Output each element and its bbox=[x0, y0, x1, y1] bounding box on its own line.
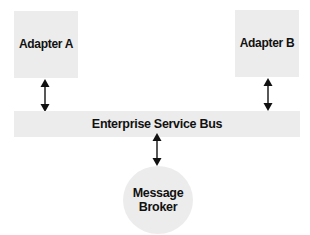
adapter-a-label: Adapter A bbox=[19, 38, 73, 52]
bus-label: Enterprise Service Bus bbox=[92, 117, 222, 131]
adapter-b-label: Adapter B bbox=[240, 37, 295, 51]
bidirectional-arrow-icon-adapter-b bbox=[262, 78, 274, 111]
broker-label-line2: Broker bbox=[133, 200, 184, 214]
bidirectional-arrow-icon-adapter-a bbox=[39, 79, 51, 112]
adapter-b-box: Adapter B bbox=[235, 10, 299, 77]
adapter-a-box: Adapter A bbox=[14, 11, 78, 78]
broker-label: Message Broker bbox=[133, 186, 184, 215]
message-broker-circle: Message Broker bbox=[123, 166, 193, 234]
broker-label-line1: Message bbox=[133, 186, 184, 200]
bidirectional-arrow-icon-broker bbox=[151, 133, 163, 166]
